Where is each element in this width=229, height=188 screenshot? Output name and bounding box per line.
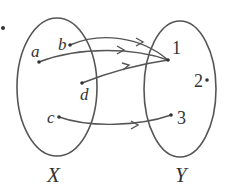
arrow-c-to-3 <box>59 115 171 124</box>
label-a: a <box>31 42 40 61</box>
point-b <box>68 43 72 47</box>
point-3 <box>169 113 173 117</box>
label-c: c <box>47 108 55 127</box>
arrow-b-to-1 <box>70 38 168 60</box>
point-2 <box>205 78 209 82</box>
point-c <box>57 115 61 119</box>
label-2: 2 <box>194 71 203 91</box>
set-y-label: Y <box>175 163 189 187</box>
label-d: d <box>80 85 89 104</box>
label-1: 1 <box>172 38 181 58</box>
set-x-label: X <box>46 163 61 187</box>
label-b: b <box>58 35 67 54</box>
point-1 <box>166 58 170 62</box>
label-3: 3 <box>177 108 186 128</box>
bullet-dot <box>1 26 5 30</box>
mapping-diagram: a b d c 1 2 3 X Y <box>0 0 229 188</box>
